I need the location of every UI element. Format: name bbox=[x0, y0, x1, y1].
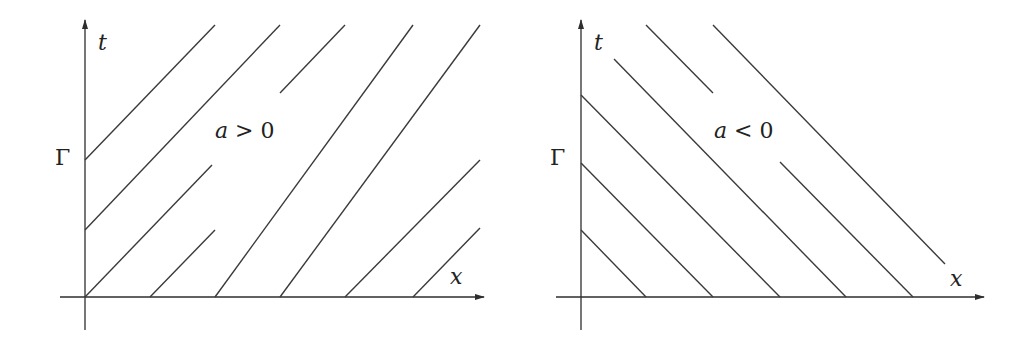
x-axis-label: x bbox=[950, 266, 963, 291]
t-axis-label: t bbox=[594, 30, 603, 55]
condition-label: a < 0 bbox=[714, 118, 774, 143]
characteristics-diagram: t x Γ a > 0 t x Γ a < 0 bbox=[0, 0, 1024, 342]
t-axis-label: t bbox=[98, 30, 107, 55]
left-panel: t x Γ a > 0 bbox=[55, 20, 484, 330]
boundary-label: Γ bbox=[55, 145, 70, 170]
x-axis-label: x bbox=[450, 264, 463, 289]
boundary-label: Γ bbox=[550, 145, 565, 170]
characteristic-lines bbox=[581, 25, 945, 297]
characteristic-lines bbox=[85, 25, 480, 297]
condition-label: a > 0 bbox=[215, 118, 275, 143]
right-panel: t x Γ a < 0 bbox=[550, 20, 984, 330]
